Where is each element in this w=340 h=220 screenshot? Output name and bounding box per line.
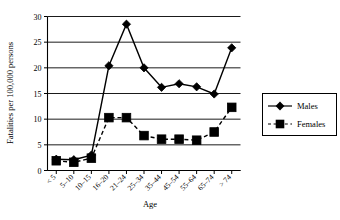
y-tick-label: 30 <box>34 13 42 22</box>
chart-figure: 051015202530 < 55–1010–1516–2021–2425–34… <box>0 0 340 220</box>
data-point-marker <box>192 136 201 145</box>
fatalities-by-age-line-chart: 051015202530 < 55–1010–1516–2021–2425–34… <box>0 0 340 220</box>
data-point-marker <box>105 113 114 122</box>
x-axis-title: Age <box>143 199 157 209</box>
legend-label-males: Males <box>297 101 318 111</box>
data-point-marker <box>70 158 79 167</box>
legend-label-females: Females <box>297 119 325 129</box>
data-point-marker <box>122 113 131 122</box>
y-tick-label: 0 <box>38 167 42 176</box>
data-point-marker <box>140 131 149 140</box>
square-marker-icon <box>276 120 285 129</box>
data-point-marker <box>210 128 219 137</box>
legend-entry-females[interactable]: Females <box>268 119 325 129</box>
y-tick-label: 25 <box>34 38 42 47</box>
data-point-marker <box>87 154 96 163</box>
data-point-marker <box>157 135 166 144</box>
legend: Males Females <box>263 94 337 136</box>
y-tick-label: 10 <box>34 115 42 124</box>
legend-box <box>263 94 337 136</box>
y-tick-label: 5 <box>38 141 42 150</box>
y-tick-label: 20 <box>34 64 42 73</box>
data-point-marker <box>227 103 236 112</box>
data-point-marker <box>52 156 61 165</box>
y-tick-label: 15 <box>34 90 42 99</box>
data-point-marker <box>175 135 184 144</box>
y-axis-title: Fatalities per 100,000 persons <box>5 42 15 144</box>
